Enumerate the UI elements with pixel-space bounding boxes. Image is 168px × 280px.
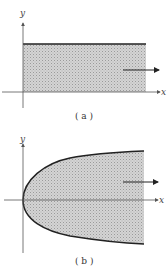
- y-axis-label-a: y: [19, 8, 26, 18]
- caption-a: ( a ): [75, 111, 93, 121]
- panel-b: y x ( b ): [4, 134, 164, 266]
- shaded-region-a: [23, 44, 146, 92]
- shaded-region-b: [23, 151, 144, 244]
- panel-a: y x ( a ): [2, 8, 166, 121]
- figure-canvas: y x ( a ) y x ( b ): [0, 0, 168, 280]
- caption-b: ( b ): [75, 256, 94, 266]
- x-axis-label-b: x: [159, 195, 164, 205]
- x-axis-label-a: x: [161, 87, 166, 97]
- y-axis-label-b: y: [19, 134, 26, 144]
